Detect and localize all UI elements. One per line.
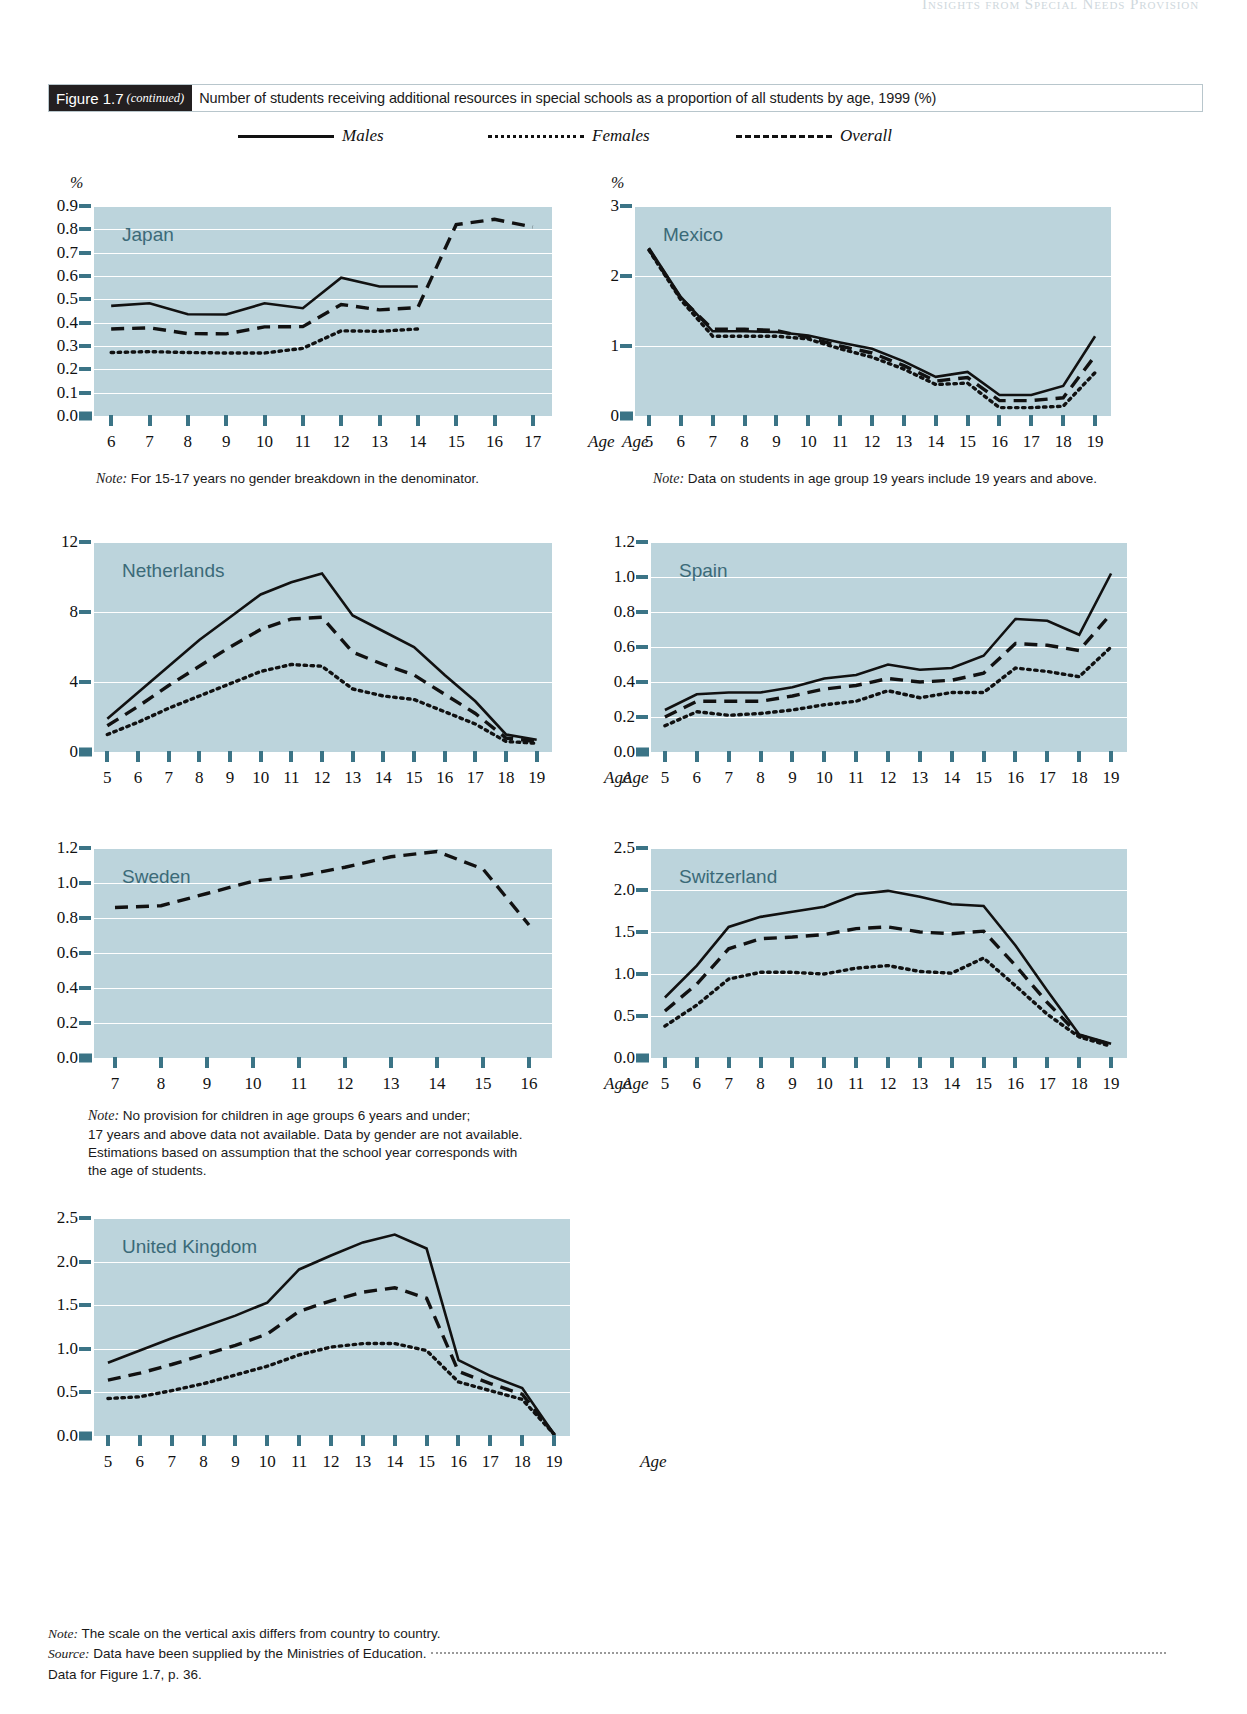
y-axis-tick-mark xyxy=(79,204,91,208)
y-axis-tick-label: 12 xyxy=(48,532,78,552)
x-axis-tick-label: 17 xyxy=(1039,768,1056,788)
x-axis-tick-mark xyxy=(1061,415,1065,426)
x-axis-tick-label: 16 xyxy=(450,1452,467,1472)
figure-number: Figure 1.7(continued) xyxy=(49,85,192,111)
x-axis-tick-label: 14 xyxy=(375,768,392,788)
x-axis-tick-mark xyxy=(679,415,683,426)
x-axis-tick-label: 11 xyxy=(295,432,311,452)
y-axis-tick-mark xyxy=(79,274,91,278)
y-axis-tick-mark xyxy=(636,930,648,934)
percent-axis-unit-label: % xyxy=(611,174,624,192)
x-axis-tick-mark xyxy=(1045,1057,1049,1068)
y-axis-tick-mark xyxy=(79,1216,91,1220)
x-axis-tick-mark xyxy=(159,1057,163,1068)
chart-panel-spain: 0.00.20.40.60.81.01.25678910111213141516… xyxy=(605,520,1247,822)
y-axis-tick-mark xyxy=(636,1054,649,1063)
x-axis-tick-mark xyxy=(934,415,938,426)
chart-panel-mexico: %01235678910111213141516171819AgeMexico xyxy=(605,170,1231,486)
x-axis-tick-label: 6 xyxy=(677,432,686,452)
x-axis-tick-label: 16 xyxy=(521,1074,538,1094)
note-japan-label: Note: xyxy=(96,471,127,486)
y-axis-tick-label: 0.6 xyxy=(40,943,78,963)
y-axis-tick-mark xyxy=(79,227,91,231)
x-axis-tick-mark xyxy=(289,751,293,762)
x-axis-tick-label: 12 xyxy=(333,432,350,452)
y-axis-tick-mark xyxy=(79,412,92,421)
x-axis-tick-mark xyxy=(233,1435,237,1446)
y-axis-tick-label: 1.0 xyxy=(40,873,78,893)
x-axis-tick-mark xyxy=(902,415,906,426)
y-axis-tick-mark xyxy=(636,680,648,684)
footer-source-text: Data have been supplied by the Ministrie… xyxy=(89,1646,426,1661)
y-axis-tick-mark xyxy=(79,297,91,301)
x-axis-tick-label: 9 xyxy=(772,432,781,452)
chart-country-label: Netherlands xyxy=(122,560,224,582)
x-axis-tick-mark xyxy=(886,751,890,762)
y-axis-tick-label: 3 xyxy=(597,196,619,216)
x-axis-tick-label: 14 xyxy=(429,1074,446,1094)
x-axis-tick-label: 12 xyxy=(314,768,331,788)
note-japan: Note: For 15-17 years no gender breakdow… xyxy=(96,470,479,489)
y-axis-tick-label: 0.4 xyxy=(38,313,78,333)
series-line-females xyxy=(108,1344,554,1435)
series-line-males xyxy=(649,248,1095,395)
x-axis-tick-label: 9 xyxy=(231,1452,240,1472)
x-axis-tick-mark xyxy=(1109,751,1113,762)
x-axis-tick-mark xyxy=(320,751,324,762)
x-axis-tick-label: 16 xyxy=(1007,1074,1024,1094)
footer-source-row: Source: Data have been supplied by the M… xyxy=(48,1644,1208,1664)
x-axis-tick-label: 19 xyxy=(528,768,545,788)
x-axis-tick-mark xyxy=(966,415,970,426)
x-axis-tick-mark xyxy=(822,1057,826,1068)
note-mexico: Note: Data on students in age group 19 y… xyxy=(653,470,1097,489)
y-axis-tick-mark xyxy=(636,972,648,976)
x-axis-tick-label: 10 xyxy=(256,432,273,452)
y-axis-tick-label: 0.2 xyxy=(40,1013,78,1033)
x-axis-tick-label: 14 xyxy=(409,432,426,452)
y-axis-tick-mark xyxy=(79,321,91,325)
x-axis-tick-label: 15 xyxy=(448,432,465,452)
y-axis-tick-mark xyxy=(636,715,648,719)
y-axis-tick-mark xyxy=(79,391,91,395)
x-axis-tick-mark xyxy=(351,751,355,762)
x-axis-tick-label: 14 xyxy=(386,1452,403,1472)
x-axis-tick-mark xyxy=(106,1435,110,1446)
y-axis-tick-mark xyxy=(79,748,92,757)
y-axis-tick-label: 0.2 xyxy=(38,359,78,379)
solid-line-icon xyxy=(238,129,334,143)
x-axis-tick-mark xyxy=(105,751,109,762)
x-axis-tick-label: 10 xyxy=(800,432,817,452)
series-line-females xyxy=(665,647,1111,726)
x-axis-tick-label: 8 xyxy=(195,768,204,788)
y-axis-tick-label: 1.0 xyxy=(597,964,635,984)
x-axis-tick-mark xyxy=(136,751,140,762)
y-axis-tick-mark xyxy=(79,344,91,348)
y-axis-tick-mark xyxy=(79,680,91,684)
x-axis-tick-mark xyxy=(504,751,508,762)
x-axis-tick-label: 10 xyxy=(816,768,833,788)
x-axis-tick-label: 12 xyxy=(337,1074,354,1094)
x-axis-tick-label: 18 xyxy=(1071,768,1088,788)
y-axis-tick-mark xyxy=(79,367,91,371)
x-axis-tick-label: 15 xyxy=(475,1074,492,1094)
legend-item-females: Females xyxy=(488,126,650,146)
x-axis-tick-label: 5 xyxy=(661,768,670,788)
x-axis-tick-mark xyxy=(886,1057,890,1068)
x-axis-tick-mark xyxy=(1029,415,1033,426)
x-axis-tick-mark xyxy=(454,415,458,426)
x-axis-tick-label: 6 xyxy=(134,768,143,788)
y-axis-tick-label: 1.0 xyxy=(597,567,635,587)
y-axis-tick-label: 2.0 xyxy=(40,1252,78,1272)
chart-panel-sweden: 0.00.20.40.60.81.01.278910111213141516Ag… xyxy=(48,826,672,1128)
chart-panel-netherlands: 048125678910111213141516171819AgeNetherl… xyxy=(48,520,672,822)
legend-label-males: Males xyxy=(342,126,384,146)
y-axis-tick-mark xyxy=(79,1390,91,1394)
y-axis-tick-mark xyxy=(636,645,648,649)
x-axis-tick-label: 11 xyxy=(291,1074,307,1094)
x-axis-tick-mark xyxy=(138,1435,142,1446)
series-line-females xyxy=(111,329,418,353)
x-axis-tick-mark xyxy=(343,1057,347,1068)
x-axis-tick-mark xyxy=(727,751,731,762)
series-line-females xyxy=(665,958,1111,1046)
figure-number-text: Figure 1.7 xyxy=(56,90,124,107)
